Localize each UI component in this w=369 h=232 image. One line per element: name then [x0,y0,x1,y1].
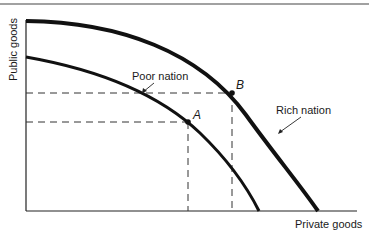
poor-nation-label: Poor nation [132,70,188,82]
point-a-label: A [192,108,201,122]
point-b-marker [229,90,235,96]
ppf-diagram: B A Poor nation Rich nation Private good… [0,0,369,232]
poor-nation-arrowhead-icon [142,88,147,93]
y-axis-label: Public goods [7,18,19,81]
rich-nation-arrow [280,117,301,132]
rich-nation-label: Rich nation [276,104,331,116]
rich-nation-curve [26,21,318,211]
rich-nation-arrowhead-icon [278,129,283,134]
x-axis-label: Private goods [295,218,363,230]
point-b-label: B [236,78,244,92]
point-a-marker [185,119,191,125]
